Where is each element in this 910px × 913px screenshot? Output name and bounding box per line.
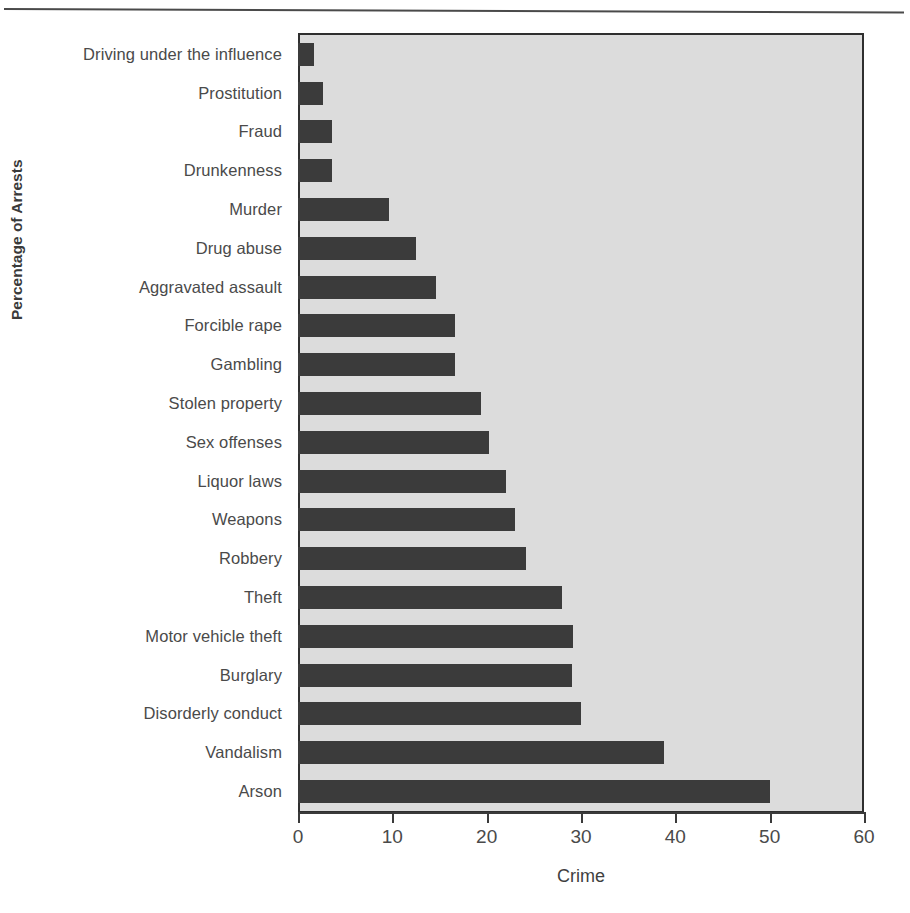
y-axis-tick-label: Arson	[0, 772, 290, 811]
bar-row	[298, 229, 860, 268]
y-axis-tick-label-text: Vandalism	[205, 743, 282, 762]
y-axis-tick-label: Liquor laws	[0, 462, 290, 501]
y-axis-tick-label-text: Stolen property	[169, 394, 282, 413]
y-axis-tick-label-text: Drug abuse	[196, 239, 282, 258]
bar-row	[298, 501, 860, 540]
bar	[298, 159, 332, 182]
y-axis-tick-label: Motor vehicle theft	[0, 617, 290, 656]
y-axis-tick-label-text: Drunkenness	[184, 161, 282, 180]
bar	[298, 547, 526, 570]
bar-chart-figure: Driving under the influenceProstitutionF…	[0, 0, 910, 913]
y-axis-tick-label: Sex offenses	[0, 423, 290, 462]
x-axis-tick-label: 60	[853, 826, 874, 848]
x-axis-tick	[864, 812, 866, 823]
bar	[298, 353, 455, 376]
y-axis-tick-label-text: Weapons	[212, 510, 282, 529]
y-axis-tick-label-text: Liquor laws	[197, 472, 282, 491]
y-axis-tick-label: Aggravated assault	[0, 268, 290, 307]
bar	[298, 198, 389, 221]
y-axis-tick-label: Vandalism	[0, 733, 290, 772]
bar	[298, 702, 581, 725]
x-axis-tick	[581, 812, 583, 823]
bar	[298, 586, 562, 609]
bar-row	[298, 462, 860, 501]
y-axis-tick-label: Robbery	[0, 539, 290, 578]
bar	[298, 82, 323, 105]
y-axis-category-labels: Driving under the influenceProstitutionF…	[0, 35, 290, 811]
x-axis-tick	[392, 812, 394, 823]
y-axis-tick-label-text: Arson	[238, 782, 282, 801]
bar-row	[298, 268, 860, 307]
bar-row	[298, 695, 860, 734]
bar	[298, 276, 436, 299]
y-axis-tick-label-text: Fraud	[238, 122, 282, 141]
bar-row	[298, 539, 860, 578]
bar-row	[298, 733, 860, 772]
y-axis-tick-label: Gambling	[0, 345, 290, 384]
x-axis-tick-label: 50	[759, 826, 780, 848]
bar	[298, 237, 416, 260]
y-axis-tick-label-text: Murder	[229, 200, 282, 219]
y-axis-tick-label-text: Theft	[244, 588, 282, 607]
x-axis-title: Crime	[298, 866, 864, 887]
y-axis-tick-label: Drug abuse	[0, 229, 290, 268]
bar	[298, 120, 332, 143]
x-axis-tick	[675, 812, 677, 823]
bar-row	[298, 190, 860, 229]
x-axis-tick	[770, 812, 772, 823]
bar	[298, 741, 664, 764]
y-axis-tick-label-text: Burglary	[220, 666, 282, 685]
y-axis-tick-label-text: Robbery	[219, 549, 282, 568]
y-axis-tick-label: Disorderly conduct	[0, 695, 290, 734]
x-axis-tick-label: 20	[476, 826, 497, 848]
y-axis-tick-label: Stolen property	[0, 384, 290, 423]
y-axis-tick-label-text: Gambling	[211, 355, 282, 374]
bar	[298, 625, 573, 648]
y-axis-tick-label-text: Prostitution	[198, 84, 282, 103]
bar	[298, 43, 314, 66]
bar-row	[298, 656, 860, 695]
y-axis-tick-label-text: Aggravated assault	[139, 278, 282, 297]
bar-row	[298, 384, 860, 423]
bar	[298, 508, 515, 531]
bar-row	[298, 772, 860, 811]
y-axis-tick-label-text: Driving under the influence	[83, 45, 282, 64]
bar-row	[298, 423, 860, 462]
x-axis-tick	[298, 812, 300, 823]
y-axis-tick-label: Forcible rape	[0, 307, 290, 346]
x-axis-tick-label: 0	[293, 826, 304, 848]
bar-row	[298, 151, 860, 190]
y-axis-tick-label-text: Disorderly conduct	[144, 704, 282, 723]
x-axis-tick-label: 30	[570, 826, 591, 848]
bar	[298, 431, 489, 454]
bar	[298, 392, 481, 415]
bar	[298, 780, 770, 803]
bar-row	[298, 113, 860, 152]
bar-row	[298, 74, 860, 113]
y-axis-tick-label: Driving under the influence	[0, 35, 290, 74]
x-axis-tick-label: 40	[665, 826, 686, 848]
bar-row	[298, 345, 860, 384]
y-axis-tick-label: Theft	[0, 578, 290, 617]
bar-row	[298, 578, 860, 617]
y-axis-tick-label: Burglary	[0, 656, 290, 695]
bar-row	[298, 617, 860, 656]
y-axis-tick-label-text: Forcible rape	[184, 316, 282, 335]
bar	[298, 664, 572, 687]
bar	[298, 314, 455, 337]
x-axis-tick-label: 10	[382, 826, 403, 848]
y-axis-tick-label: Fraud	[0, 113, 290, 152]
x-axis-tick	[487, 812, 489, 823]
y-axis-tick-label-text: Sex offenses	[186, 433, 282, 452]
figure-page: Driving under the influenceProstitutionF…	[0, 0, 910, 913]
y-axis-tick-label: Murder	[0, 190, 290, 229]
bar-row	[298, 307, 860, 346]
y-axis-tick-label: Weapons	[0, 501, 290, 540]
bar	[298, 470, 506, 493]
y-axis-tick-label: Drunkenness	[0, 151, 290, 190]
y-axis-title: Percentage of Arrests	[8, 159, 26, 320]
bar-series	[298, 35, 860, 811]
bar-row	[298, 35, 860, 74]
y-axis-tick-label-text: Motor vehicle theft	[145, 627, 282, 646]
y-axis-tick-label: Prostitution	[0, 74, 290, 113]
